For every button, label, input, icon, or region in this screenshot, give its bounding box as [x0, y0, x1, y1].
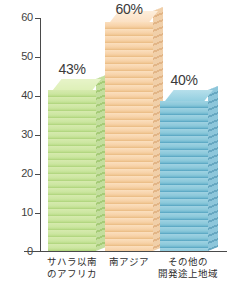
bar-3-top-face — [160, 90, 208, 101]
y-tick-10: 10 — [0, 207, 33, 218]
y-tick-label-10: 10 — [1, 207, 33, 218]
y-tick-30: 30 — [0, 129, 33, 140]
bar-2-front-face — [105, 22, 153, 251]
bar-1-top-face — [48, 79, 96, 90]
bar-1-category-line-2: のアフリカ — [30, 268, 114, 280]
bar-2-value-label: 60% — [105, 2, 153, 16]
bar-3-value-label: 40% — [160, 73, 208, 87]
bar-1-value-label: 43% — [48, 62, 96, 76]
y-axis-line — [40, 18, 41, 252]
bar-3-category-line-1: その他の — [148, 256, 228, 268]
y-tick-label-60: 60 — [1, 12, 33, 23]
bar-3-front-face — [160, 101, 208, 251]
bar-3-category-line-2: 開発途上地域 — [148, 268, 228, 280]
bar-3-side-face — [208, 86, 218, 251]
y-tick-40: 40 — [0, 90, 33, 101]
y-tick-label-40: 40 — [1, 90, 33, 101]
bar-other-developing-regions — [160, 90, 208, 251]
bar-sub-saharan-africa — [48, 79, 96, 251]
y-tick-50: 50 — [0, 51, 33, 62]
y-tick-20: 20 — [0, 168, 33, 179]
x-axis-line — [24, 251, 227, 252]
y-tick-label-50: 50 — [1, 51, 33, 62]
y-tick-60: 60 — [0, 12, 33, 23]
bar-chart: 60 50 40 30 20 10 0 43% サハラ以南 のアフ — [0, 0, 231, 285]
bar-south-asia — [105, 11, 153, 251]
bar-3-category-label: その他の 開発途上地域 — [148, 256, 228, 280]
y-tick-label-30: 30 — [1, 129, 33, 140]
bar-1-front-face — [48, 90, 96, 251]
y-tick-label-20: 20 — [1, 168, 33, 179]
